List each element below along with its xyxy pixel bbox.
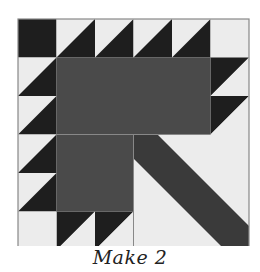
corner-dark-square <box>18 19 57 58</box>
center-rect-upper <box>57 58 211 135</box>
center-rect-lower <box>57 135 134 212</box>
corner-light-square-tr <box>211 19 250 58</box>
corner-light-square-bl <box>18 212 57 247</box>
caption-make-2: Make 2 <box>0 246 260 268</box>
quilt-block-diagram <box>0 0 260 246</box>
